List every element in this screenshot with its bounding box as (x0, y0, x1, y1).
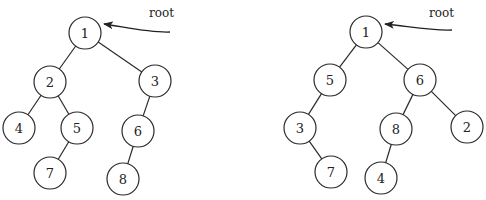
root-label: root (149, 6, 174, 20)
node-label: 1 (362, 25, 370, 40)
tree-edge (431, 91, 455, 115)
tree-edge (403, 94, 413, 114)
node-label: 3 (296, 121, 304, 136)
right-tree-edges (308, 43, 455, 163)
node-label: 4 (15, 121, 23, 136)
node-label: 7 (46, 166, 54, 181)
left-tree: 12345678 root (3, 6, 174, 195)
tree-node: 8 (380, 113, 412, 145)
node-label: 5 (326, 73, 334, 88)
tree-edge (378, 43, 408, 70)
tree-node: 7 (315, 156, 347, 188)
node-label: 2 (46, 75, 54, 90)
tree-node: 6 (404, 64, 436, 96)
tree-node: 3 (284, 112, 316, 144)
node-label: 4 (377, 171, 385, 186)
tree-node: 1 (350, 16, 382, 48)
tree-node: 3 (139, 65, 171, 97)
node-label: 1 (81, 26, 89, 41)
tree-edge (58, 96, 69, 114)
tree-edge (58, 142, 69, 160)
node-label: 2 (463, 120, 471, 135)
tree-edge (309, 141, 322, 159)
tree-node: 4 (3, 112, 35, 144)
root-label: root (429, 6, 454, 20)
node-label: 6 (134, 124, 142, 139)
node-label: 8 (392, 122, 400, 137)
tree-node: 2 (34, 66, 66, 98)
left-tree-nodes: 12345678 (3, 17, 171, 195)
tree-edge (59, 46, 75, 69)
root-pointer-arrow (385, 24, 452, 30)
tree-edge (386, 144, 392, 162)
tree-node: 1 (69, 17, 101, 49)
tree-edge (308, 94, 321, 115)
tree-node: 8 (107, 163, 139, 195)
tree-edge (143, 96, 150, 116)
root-pointer-arrow (104, 24, 170, 32)
tree-edge (340, 45, 357, 67)
tree-node: 5 (314, 64, 346, 96)
tree-node: 6 (122, 115, 154, 147)
tree-edge (98, 42, 142, 72)
node-label: 6 (416, 73, 424, 88)
node-label: 3 (151, 74, 159, 89)
node-label: 5 (73, 121, 81, 136)
node-label: 8 (119, 172, 127, 187)
tree-edge (28, 95, 41, 114)
tree-node: 7 (34, 157, 66, 189)
node-label: 7 (327, 165, 335, 180)
tree-node: 5 (61, 112, 93, 144)
tree-node: 4 (365, 162, 397, 194)
tree-edge (128, 146, 133, 163)
diagram-canvas: 12345678 root 15638274 root (0, 0, 486, 200)
tree-node: 2 (451, 111, 483, 143)
right-tree: 15638274 root (284, 6, 483, 194)
